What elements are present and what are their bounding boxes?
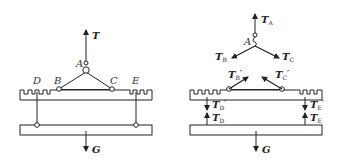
pin-b <box>57 87 62 92</box>
label-a-fbd: A <box>243 36 251 47</box>
label-c: C <box>110 75 118 86</box>
force-t-label: T <box>92 30 101 41</box>
chain-ab <box>59 72 86 89</box>
force-te-prime-label: TE′ <box>310 97 325 111</box>
pin-e-lower <box>134 123 139 128</box>
ring-a-fbd <box>253 33 257 37</box>
label-e: E <box>131 75 140 86</box>
pin-d-lower <box>35 123 40 128</box>
force-tc-arrow <box>255 46 279 58</box>
force-g-label: G <box>92 144 101 155</box>
force-ta-label: TA <box>261 14 273 26</box>
force-tc-label: TC <box>282 51 294 63</box>
force-td-label: TD <box>212 112 224 124</box>
right-figure: TB′ TC′ TA TB TC A TD′ TE′ TD TE G <box>190 14 325 155</box>
hook-a-fbd <box>253 37 257 46</box>
label-a: A <box>75 58 83 69</box>
ring-a-large <box>83 67 89 73</box>
chain-ac <box>86 72 112 89</box>
ring-a-small <box>84 61 88 65</box>
left-figure: T G A B C D E <box>20 30 152 155</box>
force-td-prime-label: TD′ <box>212 97 227 111</box>
force-g-label-fbd: G <box>262 144 271 155</box>
force-te-label: TE <box>310 112 322 124</box>
diagram-canvas: T G A B C D E TB′ TC′ TA <box>0 0 340 162</box>
label-d: D <box>32 75 41 86</box>
force-tc-prime-label: TC′ <box>275 67 290 81</box>
force-tb-label: TB <box>215 51 227 63</box>
pin-c <box>110 87 115 92</box>
serrated-beam-fbd <box>190 90 322 100</box>
force-tb-arrow <box>232 46 255 58</box>
serrated-beam <box>20 90 152 100</box>
force-tb-prime-label: TB′ <box>228 67 243 81</box>
label-b: B <box>53 75 61 86</box>
